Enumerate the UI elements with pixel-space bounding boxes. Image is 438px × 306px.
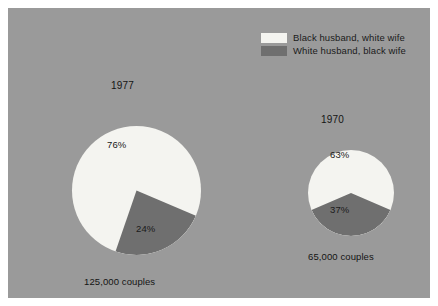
pie-1970-gray-wedge: [308, 150, 394, 236]
pie-1977-caption: 125,000 couples: [84, 276, 155, 287]
chart-image: Black husband, white wife White husband,…: [0, 0, 438, 306]
legend-swatch-white-icon: [261, 33, 287, 43]
pie-chart-1977: [72, 126, 201, 255]
pie-1977-year-label: 1977: [111, 80, 134, 91]
pie-chart-1970: [308, 150, 394, 236]
pie-1977-white-value: 76%: [107, 139, 126, 150]
pie-1977-gray-value: 24%: [136, 223, 155, 234]
legend-swatch-gray-icon: [261, 46, 287, 56]
legend-item-black-husband-white-wife: Black husband, white wife: [261, 32, 406, 43]
pie-1970-year-label: 1970: [321, 114, 344, 125]
legend-label-white-husband-black-wife: White husband, black wife: [293, 45, 406, 56]
legend: Black husband, white wife White husband,…: [261, 32, 406, 56]
legend-item-white-husband-black-wife: White husband, black wife: [261, 45, 406, 56]
chart-panel: Black husband, white wife White husband,…: [8, 8, 430, 298]
pie-1970-white-value: 63%: [330, 149, 349, 160]
pie-1977-gray-wedge: [72, 126, 201, 255]
pie-1970-caption: 65,000 couples: [308, 251, 374, 262]
pie-1970-gray-value: 37%: [330, 204, 349, 215]
legend-label-black-husband-white-wife: Black husband, white wife: [293, 32, 405, 43]
